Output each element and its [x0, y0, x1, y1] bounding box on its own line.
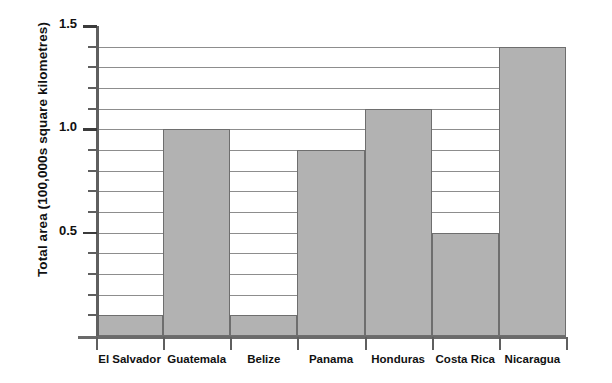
- y-axis-title: Total area (100,000s square kilometres): [35, 5, 50, 295]
- y-axis-minor-tick: [88, 46, 97, 48]
- bar-honduras: [365, 109, 432, 336]
- x-axis-tick: [297, 337, 299, 350]
- y-axis-minor-tick: [88, 294, 97, 296]
- x-axis-tick: [230, 337, 232, 350]
- y-axis-minor-tick: [88, 108, 97, 110]
- x-axis-label-el-salvador: El Salvador: [96, 353, 163, 365]
- y-axis-minor-tick: [88, 170, 97, 172]
- x-axis-tick: [163, 337, 165, 350]
- y-axis-minor-tick: [88, 190, 97, 192]
- y-axis-line: [96, 26, 99, 337]
- y-axis-minor-tick: [88, 252, 97, 254]
- y-axis-tick-label: 1.0: [59, 119, 77, 134]
- bar-costa-rica: [432, 233, 499, 336]
- x-axis-tick: [566, 337, 568, 350]
- bar-guatemala: [163, 129, 230, 336]
- x-axis-label-belize: Belize: [230, 353, 297, 365]
- y-axis-major-tick: 0.5: [83, 232, 97, 235]
- x-axis-tick: [432, 337, 434, 350]
- x-axis-label-panama: Panama: [297, 353, 364, 365]
- x-axis-label-guatemala: Guatemala: [163, 353, 230, 365]
- x-axis-tick: [499, 337, 501, 350]
- bar-belize: [230, 315, 297, 336]
- y-axis-minor-tick: [88, 211, 97, 213]
- bars-layer: [96, 14, 566, 337]
- y-axis-major-tick: 1.5: [83, 25, 97, 28]
- x-axis-tick: [365, 337, 367, 350]
- y-axis-minor-tick: [88, 87, 97, 89]
- plot-area: 0.51.01.5 El SalvadorGuatemalaBelizePana…: [96, 14, 566, 337]
- y-axis-major-tick: 1.0: [83, 128, 97, 131]
- y-axis-tick-label: 1.5: [59, 16, 77, 31]
- y-axis-minor-tick: [88, 66, 97, 68]
- x-axis-label-nicaragua: Nicaragua: [499, 353, 566, 365]
- bar-chart: Total area (100,000s square kilometres) …: [0, 0, 612, 383]
- x-axis-label-honduras: Honduras: [365, 353, 432, 365]
- x-axis-label-costa-rica: Costa Rica: [432, 353, 499, 365]
- x-axis-tick: [96, 337, 98, 350]
- bar-panama: [297, 150, 364, 336]
- bar-nicaragua: [499, 47, 566, 336]
- x-axis-line: [78, 336, 566, 339]
- y-axis-minor-tick: [88, 149, 97, 151]
- bar-el-salvador: [96, 315, 163, 336]
- y-axis-minor-tick: [88, 273, 97, 275]
- y-axis-minor-tick: [88, 314, 97, 316]
- y-axis-tick-label: 0.5: [59, 223, 77, 238]
